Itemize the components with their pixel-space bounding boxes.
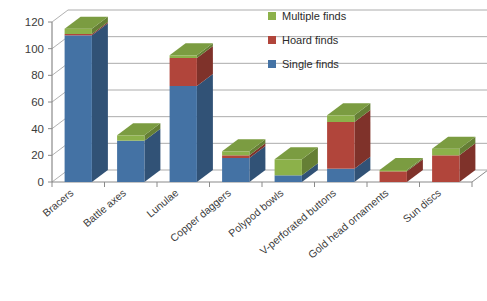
y-tick-label: 120	[25, 16, 44, 28]
bar-segment-single-finds[interactable]	[170, 74, 213, 182]
y-tick-label: 100	[25, 43, 44, 55]
legend-label: Multiple finds	[282, 10, 347, 22]
bar-column[interactable]	[170, 43, 213, 182]
legend-label: Hoard finds	[282, 34, 339, 46]
bar-chart: 020406080100120 BracersBattle axesLunula…	[0, 0, 487, 301]
bar-column[interactable]	[65, 17, 108, 182]
y-tick-label: 80	[31, 69, 44, 81]
bar-column[interactable]	[117, 123, 160, 182]
legend-swatch	[268, 36, 276, 44]
bar-column[interactable]	[327, 103, 370, 182]
legend-label: Single finds	[282, 58, 339, 70]
y-tick-label: 0	[38, 176, 44, 188]
y-tick-label: 60	[31, 96, 44, 108]
chart-page: 020406080100120 BracersBattle axesLunula…	[0, 0, 487, 301]
legend-swatch	[268, 12, 276, 20]
bar-segment-single-finds[interactable]	[65, 23, 108, 182]
y-tick-label: 40	[31, 123, 44, 135]
y-tick-label: 20	[31, 149, 44, 161]
legend-swatch	[268, 60, 276, 68]
